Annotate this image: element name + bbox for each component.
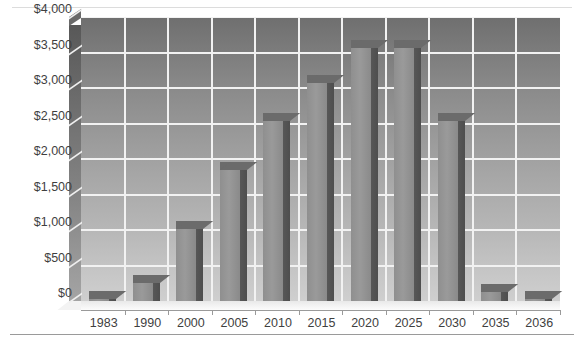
bar-side-face (545, 299, 552, 301)
bar-top-face (481, 284, 508, 292)
bar-front-face (481, 292, 501, 301)
bottom-divider-rule (10, 334, 574, 335)
x-axis-tick (473, 310, 474, 315)
x-axis-tick-label: 1983 (90, 316, 118, 330)
x-axis-tick-label: 2036 (525, 316, 553, 330)
y-axis-tick-label: $1,500 (0, 180, 72, 194)
x-axis-tick (255, 310, 256, 315)
x-axis-tick (386, 310, 387, 315)
y-axis-tick-label: $3,500 (0, 38, 72, 52)
y-axis-tick-label: $0 (0, 286, 72, 300)
bar-column[interactable] (263, 113, 290, 301)
bar-column[interactable] (307, 75, 334, 301)
gridline-vertical (515, 17, 517, 301)
bar-top-face (351, 40, 378, 48)
bar-column[interactable] (351, 40, 378, 301)
bar-top-face (133, 275, 160, 283)
bar-side-face (153, 283, 160, 301)
bar-top-face (263, 113, 290, 121)
bar-front-face (220, 170, 240, 301)
x-axis-tick-label: 2000 (177, 316, 205, 330)
x-axis-line (81, 310, 561, 311)
bar-front-face (394, 48, 414, 301)
x-axis-tick-label: 2015 (308, 316, 336, 330)
y-axis-tick-label: $500 (0, 251, 72, 265)
gridline-vertical (254, 17, 256, 301)
y-axis-tick-label: $3,000 (0, 73, 72, 87)
bar-side-face (458, 121, 465, 301)
x-axis-tick-label: 2010 (264, 316, 292, 330)
x-axis-tick-label: 2005 (221, 316, 249, 330)
bar-side-face (196, 229, 203, 301)
bar-front-face (351, 48, 371, 301)
bar-top-face (220, 162, 247, 170)
bar-top-face (307, 75, 334, 83)
x-axis-tick-label: 2030 (438, 316, 466, 330)
bar-side-face (501, 292, 508, 301)
gridline-vertical (385, 17, 387, 301)
bar-column[interactable] (176, 221, 203, 301)
bar-column[interactable] (481, 284, 508, 301)
gridline-vertical (341, 17, 343, 301)
bar-front-face (176, 229, 196, 301)
gridline-vertical (298, 17, 300, 301)
y-axis-tick-label: $2,500 (0, 109, 72, 123)
bar-front-face (263, 121, 283, 301)
bar-top-face (176, 221, 203, 229)
bar-side-face (109, 299, 116, 301)
x-axis-tick (168, 310, 169, 315)
bar-column[interactable] (394, 40, 421, 301)
x-axis-tick (342, 310, 343, 315)
x-axis-tick (560, 310, 561, 315)
bar-top-face (89, 291, 116, 299)
bar-column[interactable] (133, 275, 160, 301)
bar-front-face (525, 299, 545, 301)
bar-top-face (525, 291, 552, 299)
bar-side-face (414, 48, 421, 301)
bar-side-face (327, 83, 334, 301)
gridline-horizontal (81, 17, 560, 18)
bar-column[interactable] (220, 162, 247, 301)
y-axis-tick-label: $4,000 (0, 2, 72, 16)
x-axis-tick (429, 310, 430, 315)
x-axis-tick-label: 2035 (482, 316, 510, 330)
bar-column[interactable] (438, 113, 465, 301)
bar-side-face (371, 48, 378, 301)
gridline-vertical (211, 17, 213, 301)
bar-column[interactable] (89, 291, 116, 301)
gridline-vertical (428, 17, 430, 301)
bar-chart: $0$500$1,000$1,500$2,000$2,500$3,000$3,5… (0, 0, 584, 343)
x-axis-tick-label: 1990 (133, 316, 161, 330)
gridline-vertical (124, 17, 126, 301)
x-axis-tick (516, 310, 517, 315)
gridline-vertical (167, 17, 169, 301)
gridline-horizontal (81, 52, 560, 54)
bar-top-face (438, 113, 465, 121)
y-axis-tick-label: $2,000 (0, 144, 72, 158)
gridline-vertical (472, 17, 474, 301)
x-axis-tick-label: 2020 (351, 316, 379, 330)
chart-floor-front (81, 301, 560, 310)
bar-front-face (89, 299, 109, 301)
x-axis-tick (299, 310, 300, 315)
bar-column[interactable] (525, 291, 552, 301)
bar-front-face (133, 283, 153, 301)
x-axis-tick (125, 310, 126, 315)
y-axis-labels: $0$500$1,000$1,500$2,000$2,500$3,000$3,5… (0, 0, 72, 343)
bar-front-face (307, 83, 327, 301)
bar-side-face (240, 170, 247, 301)
x-axis-tick-label: 2025 (395, 316, 423, 330)
bar-side-face (283, 121, 290, 301)
bar-top-face (394, 40, 421, 48)
x-axis-tick (212, 310, 213, 315)
y-axis-tick-label: $1,000 (0, 215, 72, 229)
bar-front-face (438, 121, 458, 301)
